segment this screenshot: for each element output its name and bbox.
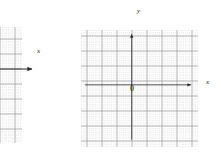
left-x-axis-label: x	[37, 48, 40, 55]
right-origin-label: 0	[130, 85, 134, 93]
left-axis-lines	[0, 27, 22, 143]
figure-canvas: x x y 0	[0, 0, 221, 160]
right-x-axis-label: x	[206, 79, 209, 86]
right-axis-lines	[81, 30, 198, 147]
left-coordinate-grid	[0, 27, 22, 143]
right-y-axis-label: y	[137, 8, 140, 15]
right-coordinate-grid	[81, 30, 198, 147]
